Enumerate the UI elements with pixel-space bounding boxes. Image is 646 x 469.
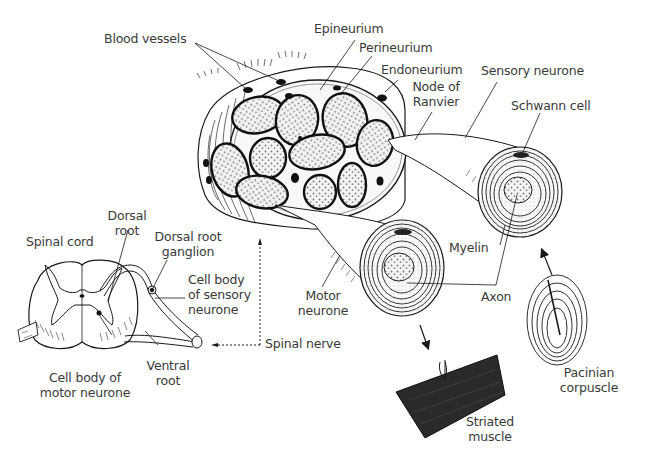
label-epineurium: Epineurium (314, 21, 384, 36)
label-cell-body-motor-neurone: Cell body of motor neurone (30, 370, 140, 400)
label-endoneurium: Endoneurium (381, 62, 462, 77)
label-myelin: Myelin (449, 240, 489, 255)
label-pacinian-corpuscle-line1: Pacinian (552, 365, 626, 380)
label-striated-muscle: Striated muscle (460, 414, 520, 444)
label-cell-body-sensory-line2: of sensory (188, 287, 251, 302)
label-sensory-neurone: Sensory neurone (481, 63, 584, 78)
label-motor-neurone-line2: neurone (294, 303, 352, 318)
label-dorsal-root: Dorsal root (104, 208, 150, 238)
label-striated-muscle-line2: muscle (460, 429, 520, 444)
label-dorsal-root-ganglion-line1: Dorsal root (148, 229, 228, 244)
label-dorsal-root-line1: Dorsal (104, 208, 150, 223)
label-cell-body-motor-line2: motor neurone (30, 385, 140, 400)
label-node-of-ranvier-line2: Ranvier (406, 94, 466, 109)
label-cell-body-motor-line1: Cell body of (30, 370, 140, 385)
label-node-of-ranvier: Node of Ranvier (406, 79, 466, 109)
label-dorsal-root-ganglion: Dorsal root ganglion (148, 229, 228, 259)
label-ventral-root-line1: Ventral (140, 358, 196, 373)
spinal-cord-section (18, 260, 138, 348)
label-pacinian-corpuscle-line2: corpuscle (552, 380, 626, 395)
label-cell-body-sensory-line3: neurone (188, 302, 251, 317)
label-spinal-nerve: Spinal nerve (265, 336, 341, 351)
label-axon: Axon (481, 289, 511, 304)
label-blood-vessels: Blood vessels (104, 31, 186, 46)
nerve-structure-diagram: Blood vessels Epineurium Perineurium End… (0, 0, 646, 469)
label-dorsal-root-ganglion-line2: ganglion (148, 244, 228, 259)
label-motor-neurone: Motor neurone (294, 288, 352, 318)
label-cell-body-sensory-line1: Cell body (188, 272, 251, 287)
label-ventral-root-line2: root (140, 373, 196, 388)
label-ventral-root: Ventral root (140, 358, 196, 388)
label-spinal-cord: Spinal cord (26, 234, 94, 249)
nerve-trunk (197, 51, 406, 229)
pacinian-corpuscle-shape (527, 275, 587, 365)
label-pacinian-corpuscle: Pacinian corpuscle (552, 365, 626, 395)
label-perineurium: Perineurium (359, 40, 432, 55)
label-schwann-cell: Schwann cell (511, 98, 591, 113)
label-node-of-ranvier-line1: Node of (406, 79, 466, 94)
label-motor-neurone-line1: Motor (294, 288, 352, 303)
label-striated-muscle-line1: Striated (460, 414, 520, 429)
label-cell-body-sensory-neurone: Cell body of sensory neurone (188, 272, 251, 317)
label-dorsal-root-line2: root (104, 223, 150, 238)
